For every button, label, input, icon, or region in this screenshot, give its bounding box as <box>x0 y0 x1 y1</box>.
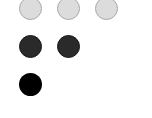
dot-row2-col2 <box>57 35 80 58</box>
dot-row1-col2 <box>57 0 80 20</box>
dot-row3-col1 <box>19 73 42 96</box>
dot-row1-col3 <box>95 0 118 20</box>
dot-row1-col1 <box>19 0 42 20</box>
dot-row2-col1 <box>19 35 42 58</box>
